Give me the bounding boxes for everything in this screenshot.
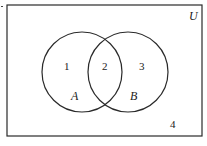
region-1-label: 1 [64,60,70,72]
set-b-label: B [130,89,138,103]
universe-label: U [189,9,199,23]
venn-diagram: U 1 2 3 4 A B [0,0,207,146]
set-a-label: A [70,89,79,103]
set-b-circle [88,32,168,112]
set-a-circle [42,32,122,112]
region-4-label: 4 [170,118,176,130]
edge-mark [1,6,3,7]
region-2-label: 2 [102,60,108,72]
region-3-label: 3 [139,60,145,72]
